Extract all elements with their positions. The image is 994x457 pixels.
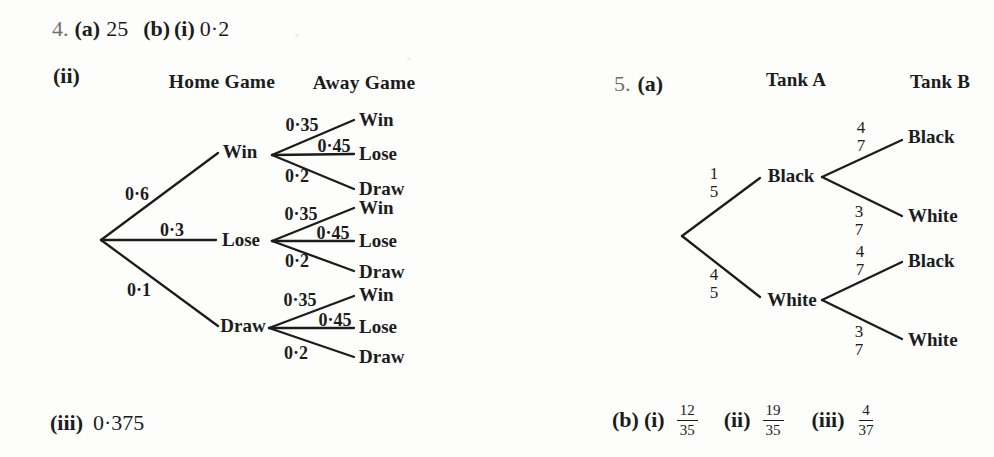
q5-branch-node: Black: [768, 165, 814, 187]
q4-part-bi-label: (i): [174, 16, 195, 42]
q4-fan-probability: 0·2: [285, 166, 309, 187]
q5-branch-fraction: 1 5: [710, 165, 719, 201]
q4-branch-probability: 0·6: [125, 184, 149, 205]
q4-leaf-label: Draw: [359, 346, 404, 368]
q4-part-bi-value: 0·2: [200, 16, 229, 42]
q5-fan-fraction: 4 7: [857, 119, 866, 155]
q5-tree-col2-header: Tank B: [910, 71, 970, 93]
fraction-numerator: 4: [710, 266, 719, 284]
textbook-answers-page: 4. (a) 25 (b) (i) 0·2 (ii) Home Game Awa…: [0, 0, 994, 457]
fraction-denominator: 7: [855, 341, 864, 359]
q5-leaf-label: White: [908, 329, 958, 351]
fraction-denominator: 35: [680, 421, 695, 439]
scan-speck: [407, 57, 411, 60]
q4-branch-node: Win: [223, 141, 258, 163]
fraction-numerator: 12: [677, 402, 698, 421]
tree-branch-lines: [0, 0, 994, 457]
q4-fan-probability: 0·35: [285, 115, 318, 136]
q4-tree-col1-header: Home Game: [169, 71, 275, 93]
q4-leaf-label: Lose: [359, 143, 397, 165]
q4-part-biii-label: (iii): [50, 410, 83, 436]
q5-answer-label: (i): [644, 407, 665, 433]
q5-answer-label: (iii): [812, 407, 845, 433]
q5-fan-fraction: 3 7: [855, 323, 864, 359]
q4-fan-probability: 0·35: [283, 290, 316, 311]
q5-branch-fraction: 4 5: [710, 266, 719, 302]
q4-fan-probability: 0·45: [316, 223, 349, 244]
q4-branch-probability: 0·3: [160, 220, 184, 241]
q4-part-a-label: (a): [75, 16, 101, 42]
fraction-numerator: 4: [856, 243, 865, 261]
q4-leaf-label: Win: [359, 109, 394, 131]
q5-leaf-label: White: [908, 205, 958, 227]
fraction-numerator: 4: [857, 119, 866, 137]
fraction-denominator: 37: [859, 421, 874, 439]
fraction-numerator: 4: [859, 402, 873, 421]
q4-leaf-label: Win: [359, 197, 394, 219]
q5-part-a-label: (a): [638, 71, 664, 97]
q4-leaf-label: Win: [359, 284, 394, 306]
q4-leaf-label: Lose: [359, 230, 397, 252]
q5-answer-fraction: 19 35: [763, 402, 784, 438]
fraction-numerator: 3: [855, 323, 864, 341]
q4-leaf-label: Lose: [359, 316, 397, 338]
q4-part-bii-label: (ii): [53, 63, 80, 89]
fraction-denominator: 35: [766, 421, 781, 439]
q4-question-number: 4.: [52, 16, 69, 42]
fraction-denominator: 7: [856, 261, 865, 279]
fraction-denominator: 5: [710, 284, 719, 302]
q5-branch-node: White: [767, 289, 817, 311]
q5-question-number: 5.: [614, 71, 631, 97]
q4-branch-node: Draw: [220, 315, 265, 337]
q4-part-b-label: (b): [143, 16, 170, 42]
q4-tree-col2-header: Away Game: [313, 72, 416, 94]
q4-branch-node: Lose: [222, 229, 260, 251]
q5-fan-fraction: 4 7: [856, 243, 865, 279]
q5-part-b-line: (b) (i) 12 35 (ii) 19 35 (iii) 4 37: [612, 401, 874, 439]
fraction-denominator: 7: [857, 137, 866, 155]
fraction-denominator: 5: [710, 183, 719, 201]
q5-answer-label: (ii): [724, 407, 751, 433]
fraction-numerator: 1: [710, 165, 719, 183]
q5-tree-col1-header: Tank A: [766, 69, 826, 91]
fraction-numerator: 3: [855, 203, 864, 221]
q5-leaf-label: Black: [908, 250, 954, 272]
q4-branch-probability: 0·1: [127, 280, 151, 301]
q4-fan-probability: 0·45: [318, 310, 351, 331]
q5-heading: 5. (a): [614, 71, 663, 97]
fraction-denominator: 7: [855, 221, 864, 239]
q4-part-biii-value: 0·375: [93, 410, 144, 436]
q4-fan-probability: 0·2: [285, 251, 309, 272]
q4-part-biii-line: (iii) 0·375: [50, 410, 144, 436]
q4-answer-line: 4. (a) 25 (b) (i) 0·2: [52, 16, 229, 42]
q4-leaf-label: Draw: [359, 261, 404, 283]
q4-fan-probability: 0·2: [284, 343, 308, 364]
q5-part-b-label: (b): [612, 407, 639, 433]
q5-answer-fraction: 4 37: [859, 402, 874, 438]
q4-part-a-value: 25: [106, 16, 128, 42]
q5-answer-fraction: 12 35: [677, 402, 698, 438]
scan-speck: [295, 34, 299, 37]
q4-fan-probability: 0·45: [317, 136, 350, 157]
q5-leaf-label: Black: [908, 126, 954, 148]
fraction-numerator: 19: [763, 402, 784, 421]
q5-fan-fraction: 3 7: [855, 203, 864, 239]
q4-fan-probability: 0·35: [284, 204, 317, 225]
